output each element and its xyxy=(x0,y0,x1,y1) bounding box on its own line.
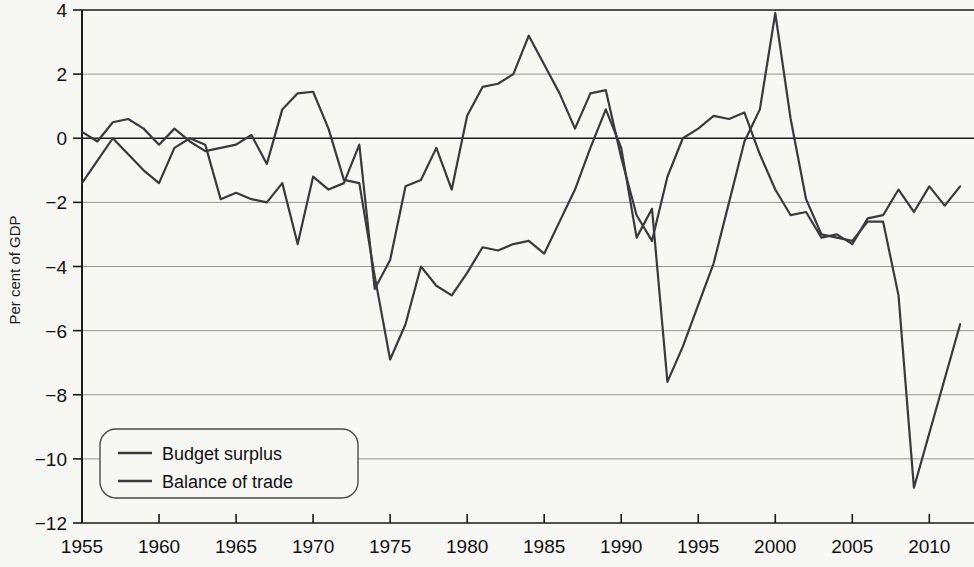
x-tick-label: 1970 xyxy=(292,536,334,557)
line-chart: 420−2−4−6−8−10−1219551960196519701975198… xyxy=(0,0,974,567)
chart-page: 420−2−4−6−8−10−1219551960196519701975198… xyxy=(0,0,974,567)
y-tick-label: −12 xyxy=(35,513,67,534)
x-tick-label: 1965 xyxy=(215,536,257,557)
legend-label: Budget surplus xyxy=(162,444,282,464)
x-tick-label: 1955 xyxy=(61,536,103,557)
x-tick-label: 2010 xyxy=(908,536,950,557)
y-tick-label: 2 xyxy=(56,64,67,85)
x-tick-label: 1985 xyxy=(523,536,565,557)
x-tick-label: 2000 xyxy=(754,536,796,557)
x-tick-label: 1990 xyxy=(600,536,642,557)
y-axis-title: Per cent of GDP xyxy=(6,215,23,324)
x-tick-label: 1995 xyxy=(677,536,719,557)
legend: Budget surplusBalance of trade xyxy=(100,429,358,498)
y-tick-label: −4 xyxy=(45,257,67,278)
x-tick-label: 2005 xyxy=(831,536,873,557)
y-tick-label: 4 xyxy=(56,0,67,21)
y-tick-label: −6 xyxy=(45,321,67,342)
y-tick-label: 0 xyxy=(56,128,67,149)
y-tick-label: −8 xyxy=(45,385,67,406)
y-tick-label: −10 xyxy=(35,449,67,470)
x-tick-label: 1975 xyxy=(369,536,411,557)
x-tick-label: 1980 xyxy=(446,536,488,557)
legend-label: Balance of trade xyxy=(162,472,293,492)
x-tick-label: 1960 xyxy=(138,536,180,557)
y-tick-label: −2 xyxy=(45,192,67,213)
